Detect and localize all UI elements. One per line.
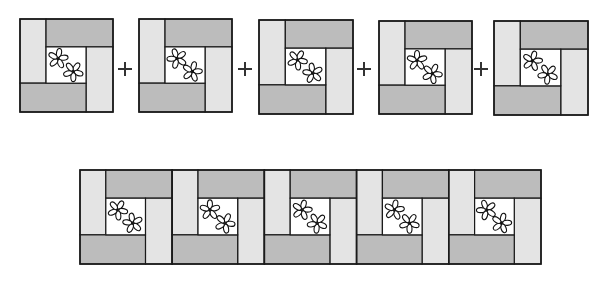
top-dark-strip <box>382 170 448 198</box>
top-block-4 <box>379 21 472 114</box>
right-light-strip <box>514 198 541 264</box>
left-light-strip <box>80 170 106 235</box>
right-light-strip <box>445 49 472 114</box>
top-block-5 <box>494 21 588 115</box>
top-block-3 <box>259 20 353 114</box>
bottom-dark-strip <box>20 83 86 112</box>
bottom-dark-strip <box>172 235 237 264</box>
bottom-dark-strip <box>264 235 329 264</box>
right-light-strip <box>422 198 449 264</box>
right-light-strip <box>326 48 353 114</box>
strip-block-3 <box>264 170 356 264</box>
top-dark-strip <box>405 21 472 49</box>
left-light-strip <box>494 21 520 86</box>
top-dark-strip <box>290 170 356 198</box>
plus-icon <box>118 62 132 76</box>
bottom-dark-strip <box>357 235 422 264</box>
left-light-strip <box>20 19 46 83</box>
top-dark-strip <box>106 170 172 198</box>
left-light-strip <box>259 20 285 85</box>
right-light-strip <box>205 47 232 112</box>
top-dark-strip <box>520 21 588 49</box>
diagram-canvas <box>0 0 606 284</box>
top-dark-strip <box>475 170 541 198</box>
top-dark-strip <box>165 19 232 47</box>
top-block-2 <box>139 19 232 112</box>
bottom-dark-strip <box>494 86 561 115</box>
strip-block-5 <box>449 170 541 264</box>
left-light-strip <box>264 170 290 235</box>
right-light-strip <box>561 49 588 115</box>
top-dark-strip <box>198 170 264 198</box>
left-light-strip <box>379 21 405 85</box>
right-light-strip <box>330 198 357 264</box>
bottom-dark-strip <box>449 235 514 264</box>
right-light-strip <box>238 198 265 264</box>
bottom-dark-strip <box>259 85 326 114</box>
bottom-dark-strip <box>379 85 445 114</box>
top-block-1 <box>20 19 113 112</box>
strip-block-2 <box>172 170 264 264</box>
strip-block-1 <box>80 170 172 264</box>
right-light-strip <box>145 198 172 264</box>
top-dark-strip <box>285 20 353 48</box>
quilt-diagram: Quilt block equation: five log-cabin flo… <box>0 0 606 284</box>
plus-icon <box>238 62 252 76</box>
plus-icon <box>474 62 488 76</box>
bottom-dark-strip <box>80 235 145 264</box>
left-light-strip <box>449 170 475 235</box>
left-light-strip <box>357 170 383 235</box>
plus-icon <box>357 62 371 76</box>
top-dark-strip <box>46 19 113 47</box>
left-light-strip <box>139 19 165 83</box>
bottom-dark-strip <box>139 83 205 112</box>
right-light-strip <box>86 47 113 112</box>
left-light-strip <box>172 170 198 235</box>
strip-block-4 <box>357 170 449 264</box>
